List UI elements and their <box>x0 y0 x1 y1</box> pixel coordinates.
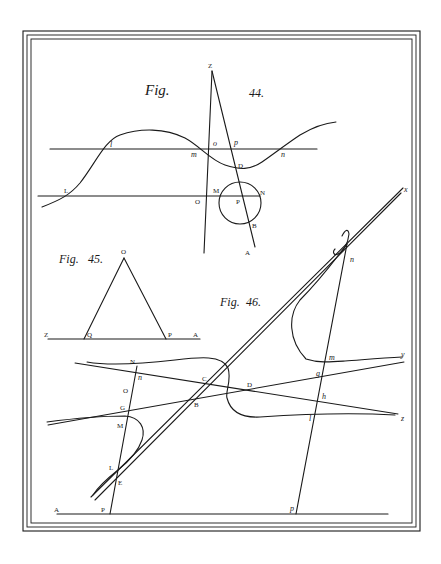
label-O: O <box>123 387 128 395</box>
label-g: g <box>316 369 320 378</box>
label-D: D <box>247 381 252 389</box>
label-x: x <box>403 185 408 194</box>
label-P: P <box>101 506 105 514</box>
label-n: n <box>281 150 285 159</box>
label-B: B <box>194 401 199 409</box>
label-A: A <box>193 331 198 339</box>
label-Z: Z <box>208 62 212 70</box>
label-G: G <box>120 404 125 412</box>
label-M: M <box>117 422 124 430</box>
fig46-asymptote-1 <box>91 188 403 497</box>
fig46-line-Gy <box>48 362 404 425</box>
label-N: N <box>130 358 135 366</box>
label-p: p <box>233 138 238 147</box>
fig45-caption-word: Fig. <box>58 252 79 266</box>
fig44-caption-number: 44. <box>249 86 264 100</box>
label-l: l <box>110 140 113 149</box>
label-n-upper: n <box>350 255 354 264</box>
label-n-lower: n <box>138 373 142 382</box>
label-A: A <box>245 249 250 257</box>
label-E: E <box>118 479 122 487</box>
fig46-asymptote-2 <box>95 193 401 500</box>
label-p: p <box>289 504 294 513</box>
figure-44: Fig. 44. Z l o p m n D L M N O P B A <box>38 62 336 257</box>
fig46-caption-word: Fig. <box>219 295 240 309</box>
fig44-caption-word: Fig. <box>144 82 170 98</box>
label-L: L <box>109 464 113 472</box>
label-B: B <box>252 222 257 230</box>
figure-46: Fig. 46. x n m y g h l z N n C D <box>47 185 408 514</box>
fig46-curve-upper-right <box>292 244 402 362</box>
label-o: o <box>213 139 217 148</box>
figure-45: Fig. 45. O Z Q P A <box>44 248 200 339</box>
fig44-line-ZO <box>204 71 212 253</box>
label-Z: Z <box>44 331 48 339</box>
fig46-caption-number: 46. <box>246 295 261 309</box>
fig45-caption-number: 45. <box>88 252 103 266</box>
label-M: M <box>213 187 220 195</box>
label-l: l <box>309 414 312 423</box>
label-z: z <box>400 414 405 423</box>
engraved-plate: Fig. 44. Z l o p m n D L M N O P B A Fig… <box>0 0 441 564</box>
label-y: y <box>400 350 405 359</box>
label-A: A <box>54 506 59 514</box>
label-O: O <box>121 248 126 256</box>
label-m: m <box>329 353 335 362</box>
label-P: P <box>236 198 240 206</box>
label-C: C <box>202 375 207 383</box>
label-h: h <box>322 392 326 401</box>
label-P: P <box>168 331 172 339</box>
fig44-circle <box>219 182 261 224</box>
fig46-ordinate-pn <box>296 244 347 514</box>
label-N: N <box>260 189 265 197</box>
label-D: D <box>238 162 243 170</box>
fig45-side-OP <box>124 258 166 339</box>
fig44-wave-curve <box>42 122 336 207</box>
label-O: O <box>195 198 200 206</box>
label-Q: Q <box>87 331 92 339</box>
plate-frame <box>23 31 420 531</box>
label-L: L <box>64 187 68 195</box>
fig45-side-OQ <box>84 258 124 339</box>
label-m: m <box>191 150 197 159</box>
fig46-curve-lower-left <box>47 416 143 495</box>
